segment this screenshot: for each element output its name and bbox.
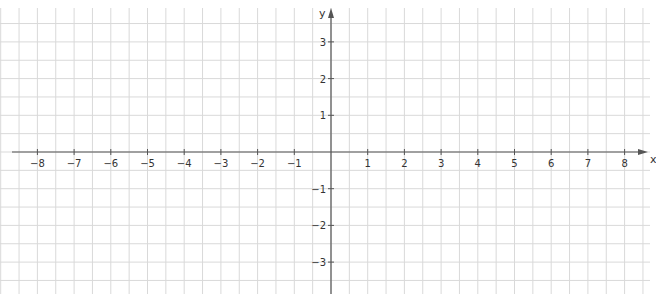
x-tick-label: 6: [548, 158, 554, 169]
x-tick-label: 1: [365, 158, 371, 169]
y-tick-label: 2: [320, 74, 326, 85]
x-axis-label: x: [650, 153, 656, 166]
axes: x y: [12, 7, 656, 294]
y-tick-label: −1: [311, 184, 326, 195]
x-tick-label: 2: [401, 158, 407, 169]
y-tick-label: 1: [320, 110, 326, 121]
x-tick-label: −1: [287, 158, 302, 169]
x-tick-label: 3: [438, 158, 444, 169]
y-axis-label: y: [319, 7, 326, 20]
y-axis-arrow-icon: [328, 8, 334, 18]
x-tick-label: 4: [475, 158, 481, 169]
x-tick-label: −4: [177, 158, 192, 169]
grid-lines: [0, 8, 650, 294]
x-tick-label: −7: [67, 158, 82, 169]
y-tick-label: −3: [311, 257, 326, 268]
x-tick-label: −3: [214, 158, 229, 169]
coordinate-plane: x y −8−7−6−5−4−3−2−112345678 321−1−2−3: [0, 0, 656, 294]
x-tick-label: −6: [103, 158, 118, 169]
x-tick-label: 5: [511, 158, 517, 169]
x-tick-label: −2: [250, 158, 265, 169]
y-tick-label: 3: [320, 37, 326, 48]
x-tick-label: 8: [621, 158, 627, 169]
y-tick-label: −2: [311, 220, 326, 231]
x-tick-label: 7: [585, 158, 591, 169]
x-tick-label: −8: [30, 158, 45, 169]
x-tick-label: −5: [140, 158, 155, 169]
